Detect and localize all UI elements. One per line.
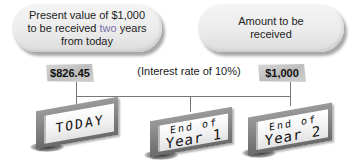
- sign-face: End of Year 1: [158, 113, 228, 151]
- callout-text: years: [117, 22, 147, 34]
- interest-rate-label: (Interest rate of 10%): [124, 65, 254, 77]
- sign-face: End of Year 2: [256, 109, 328, 150]
- callout-line: to be received two years: [27, 22, 146, 35]
- sign-label: TODAY: [55, 113, 104, 135]
- year2-stem: [290, 82, 291, 106]
- today-sign: TODAY: [36, 104, 118, 148]
- present-value-callout: Present value of $1,000 to be received t…: [12, 4, 162, 52]
- year1-sign: End of Year 1: [150, 114, 232, 156]
- sign-board: End of Year 2: [248, 103, 332, 156]
- sign-board: TODAY: [36, 97, 118, 149]
- sign-face: TODAY: [44, 103, 114, 143]
- year2-sign: End of Year 2: [248, 110, 332, 154]
- present-value-tag: $826.45: [46, 64, 94, 82]
- callout-accent-text: two: [100, 22, 117, 34]
- callout-line: Present value of $1,000: [27, 9, 146, 22]
- callout-line: Amount to be: [238, 15, 303, 28]
- callout-line: from today: [27, 35, 146, 48]
- sign-board: End of Year 1: [150, 107, 232, 157]
- timeline-connector: [76, 96, 291, 97]
- callout-text: to be received: [27, 22, 99, 34]
- future-amount-callout: Amount to be received: [198, 4, 344, 52]
- callout-line: received: [238, 28, 303, 41]
- future-amount-tag: $1,000: [258, 64, 306, 82]
- today-stem: [76, 82, 77, 106]
- year1-stem: [190, 96, 191, 112]
